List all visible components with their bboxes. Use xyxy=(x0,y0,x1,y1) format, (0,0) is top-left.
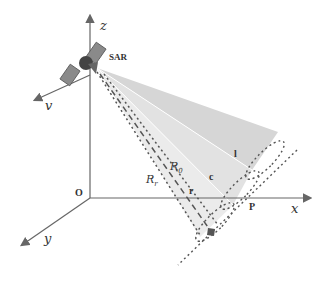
z-axis-label: z xyxy=(99,18,107,33)
R0-main: R xyxy=(169,160,178,173)
R0-subscript: 0 xyxy=(178,167,183,175)
sar-label: SAR xyxy=(109,52,128,62)
x-axis-label: x xyxy=(291,201,299,216)
target-marker xyxy=(207,228,215,236)
beam-label-l: l xyxy=(234,148,237,159)
sar-geometry-diagram: z x y v O SAR l c r R0 Rr P xyxy=(0,0,330,283)
origin-label: O xyxy=(75,187,83,198)
solar-panel-lower xyxy=(60,64,80,86)
point-label-P: P xyxy=(249,201,255,212)
beam-label-r: r xyxy=(189,185,194,196)
satellite-body xyxy=(79,56,93,70)
satellite-icon xyxy=(60,42,106,86)
Rr-subscript: r xyxy=(154,180,158,188)
beam-label-c: c xyxy=(209,171,214,182)
v-axis-label: v xyxy=(45,98,53,113)
y-axis-label: y xyxy=(43,231,52,246)
range-label-Rr: Rr xyxy=(145,173,158,188)
Rr-main: R xyxy=(145,173,154,186)
y-axis xyxy=(22,198,90,245)
